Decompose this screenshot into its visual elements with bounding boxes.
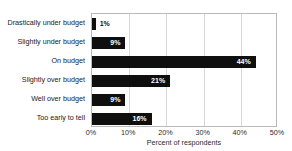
y-axis-label: Slightly over budget xyxy=(22,76,85,83)
bar: 9% xyxy=(92,37,125,49)
bar-value-label: 21% xyxy=(151,77,170,84)
bar: 16% xyxy=(92,113,152,125)
bar: 9% xyxy=(92,94,125,106)
bar-row: 16% xyxy=(92,113,276,125)
bar-value-label: 9% xyxy=(110,96,125,103)
bar: 21% xyxy=(92,75,170,87)
bar-value-label: 9% xyxy=(110,39,125,46)
x-axis-title: Percent of respondents xyxy=(91,139,277,146)
y-axis-label: Slightly under budget xyxy=(17,38,85,45)
bar-series: 1%9%44%21%9%16% xyxy=(92,14,276,126)
y-axis-label: Well over budget xyxy=(31,95,85,102)
x-axis-tick-label: 40% xyxy=(233,129,247,136)
y-axis-label: Too early to tell xyxy=(37,114,85,121)
bar-row: 9% xyxy=(92,94,276,106)
bar-value-label: 1% xyxy=(96,20,110,27)
bar xyxy=(92,18,96,30)
bar-row: 1% xyxy=(92,18,276,30)
bar-chart: Drastically under budgetSlightly under b… xyxy=(0,0,292,151)
plot-area: 1%9%44%21%9%16% xyxy=(91,13,277,127)
y-axis-label: Drastically under budget xyxy=(7,19,85,26)
y-axis-category-labels: Drastically under budgetSlightly under b… xyxy=(0,13,88,127)
bar-row: 9% xyxy=(92,37,276,49)
bar-row: 44% xyxy=(92,56,276,68)
x-axis-tick-label: 10% xyxy=(121,129,135,136)
bar: 44% xyxy=(92,56,256,68)
y-axis-label: On budget xyxy=(51,57,85,64)
bar-row: 21% xyxy=(92,75,276,87)
bar-value-label: 44% xyxy=(237,58,256,65)
x-axis-tick-label: 30% xyxy=(195,129,209,136)
bar-value-label: 16% xyxy=(133,115,152,122)
x-axis-tick-label: 50% xyxy=(270,129,284,136)
x-axis-tick-label: 0% xyxy=(86,129,96,136)
x-axis-tick-label: 20% xyxy=(158,129,172,136)
